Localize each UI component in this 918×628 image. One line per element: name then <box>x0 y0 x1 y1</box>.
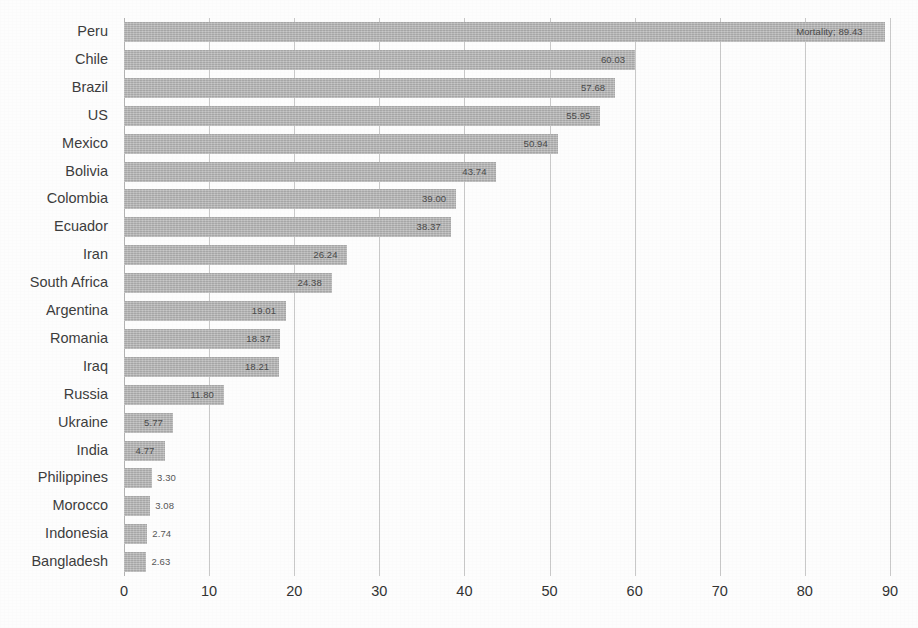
x-tick-label: 40 <box>456 583 472 599</box>
gridline-90 <box>890 18 891 576</box>
x-tick-label: 10 <box>201 583 217 599</box>
bar-value-label: 18.21 <box>245 361 269 372</box>
category-label: Morocco <box>52 492 108 520</box>
category-label: Iraq <box>83 353 108 381</box>
bar-row[interactable]: 2.63 <box>124 548 890 576</box>
bar-row[interactable]: 3.08 <box>124 492 890 520</box>
bar-rows: Mortality; 89.4360.0357.6855.9550.9443.7… <box>124 18 890 576</box>
bar-value-label: 2.74 <box>152 528 171 539</box>
bar-row[interactable]: 60.03 <box>124 46 890 74</box>
x-tick-label: 50 <box>541 583 557 599</box>
bar-row[interactable]: 57.68 <box>124 74 890 102</box>
bar-value-label: 18.37 <box>246 333 270 344</box>
bar[interactable] <box>124 50 635 70</box>
bar[interactable] <box>124 78 615 98</box>
category-label: Iran <box>83 241 108 269</box>
x-tick-label: 20 <box>286 583 302 599</box>
bar-row[interactable]: 3.30 <box>124 464 890 492</box>
bar-row[interactable]: 11.80 <box>124 381 890 409</box>
category-label: India <box>77 437 108 465</box>
bar-chart: PeruChileBrazilUSMexicoBoliviaColombiaEc… <box>0 0 918 628</box>
category-label: Mexico <box>62 130 108 158</box>
plot-area: Mortality; 89.4360.0357.6855.9550.9443.7… <box>124 18 890 576</box>
category-axis: PeruChileBrazilUSMexicoBoliviaColombiaEc… <box>0 18 116 576</box>
x-tick-label: 90 <box>882 583 898 599</box>
bar[interactable] <box>124 217 451 237</box>
bar-value-label: Mortality; 89.43 <box>796 26 863 37</box>
bar-value-label: 60.03 <box>601 54 625 65</box>
x-tick-label: 80 <box>797 583 813 599</box>
category-label: Russia <box>64 381 108 409</box>
bar-value-label: 3.08 <box>155 500 174 511</box>
bar-row[interactable]: 43.74 <box>124 158 890 186</box>
bar-row[interactable]: 4.77 <box>124 437 890 465</box>
x-tick-label: 70 <box>712 583 728 599</box>
category-label: Brazil <box>72 74 108 102</box>
bar-value-label: 43.74 <box>462 166 486 177</box>
category-label: Indonesia <box>45 520 108 548</box>
bar-value-label: 19.01 <box>252 305 276 316</box>
bar[interactable] <box>124 106 600 126</box>
bar-value-label: 38.37 <box>417 221 441 232</box>
bar-row[interactable]: 55.95 <box>124 102 890 130</box>
value-axis: 0102030405060708090 <box>124 583 890 609</box>
x-tick-label: 30 <box>371 583 387 599</box>
bar[interactable] <box>124 468 152 488</box>
bar-value-label: 4.77 <box>136 445 155 456</box>
category-label: Philippines <box>38 464 108 492</box>
bar-value-label: 5.77 <box>144 417 163 428</box>
category-label: US <box>88 102 108 130</box>
bar-row[interactable]: 26.24 <box>124 241 890 269</box>
bar-value-label: 26.24 <box>313 249 337 260</box>
bar[interactable] <box>124 552 146 572</box>
bar-row[interactable]: 18.37 <box>124 325 890 353</box>
category-label: Chile <box>75 46 108 74</box>
bar-value-label: 2.63 <box>151 556 170 567</box>
bar[interactable] <box>124 162 496 182</box>
category-label: Bolivia <box>65 158 108 186</box>
bar-row[interactable]: 19.01 <box>124 297 890 325</box>
bar-row[interactable]: Mortality; 89.43 <box>124 18 890 46</box>
bar[interactable] <box>124 22 885 42</box>
bar[interactable] <box>124 524 147 544</box>
x-tick-label: 60 <box>627 583 643 599</box>
bar-value-label: 57.68 <box>581 82 605 93</box>
bar-row[interactable]: 2.74 <box>124 520 890 548</box>
category-label: Peru <box>77 18 108 46</box>
bar[interactable] <box>124 496 150 516</box>
bar-value-label: 55.95 <box>566 110 590 121</box>
bar-row[interactable]: 5.77 <box>124 409 890 437</box>
category-label: Romania <box>50 325 108 353</box>
x-tick-label: 0 <box>120 583 128 599</box>
bar-row[interactable]: 50.94 <box>124 130 890 158</box>
bar-row[interactable]: 38.37 <box>124 213 890 241</box>
bar[interactable] <box>124 134 558 154</box>
category-label: Bangladesh <box>31 548 108 576</box>
category-label: Ecuador <box>54 213 108 241</box>
bar-value-label: 24.38 <box>298 277 322 288</box>
bar-row[interactable]: 18.21 <box>124 353 890 381</box>
bar-value-label: 3.30 <box>157 472 176 483</box>
category-label: Argentina <box>46 297 108 325</box>
category-label: Ukraine <box>58 409 108 437</box>
category-label: South Africa <box>30 269 108 297</box>
bar-value-label: 39.00 <box>422 193 446 204</box>
bar-value-label: 11.80 <box>190 389 214 400</box>
bar-row[interactable]: 39.00 <box>124 185 890 213</box>
bar-row[interactable]: 24.38 <box>124 269 890 297</box>
category-label: Colombia <box>47 185 108 213</box>
bar-value-label: 50.94 <box>524 138 548 149</box>
bar[interactable] <box>124 189 456 209</box>
